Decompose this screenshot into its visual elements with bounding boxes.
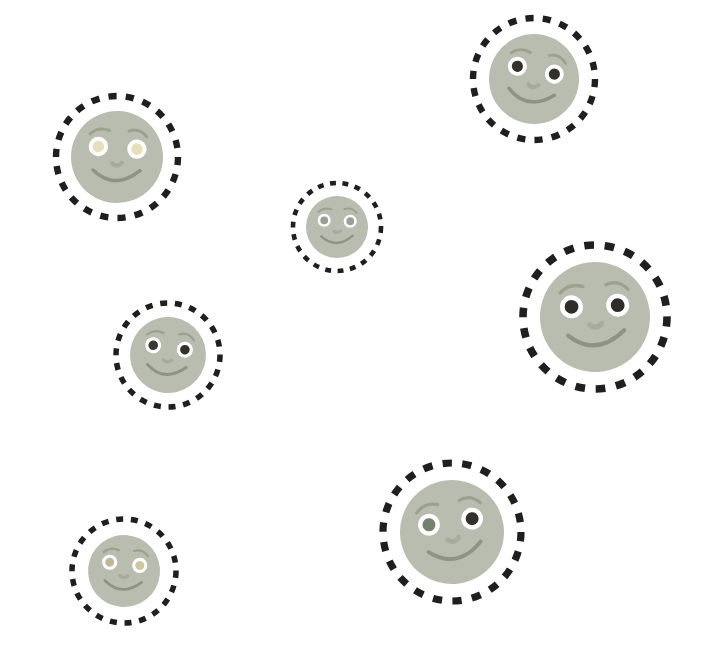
face — [305, 195, 369, 259]
face-circle — [393, 473, 510, 590]
circled-face-top-left — [56, 96, 178, 218]
circled-face-bottom-right — [383, 463, 521, 601]
circled-face-top-right — [473, 18, 595, 140]
face — [125, 312, 211, 398]
circled-face-middle-left — [116, 303, 220, 407]
face — [481, 26, 588, 133]
face-circle — [481, 26, 588, 133]
face — [68, 108, 166, 206]
circled-face-center — [293, 183, 381, 271]
face — [393, 473, 510, 590]
moon-faces-canvas — [0, 0, 716, 654]
face-circle — [68, 108, 166, 206]
face-circle — [84, 531, 163, 610]
circled-face-bottom-left — [72, 519, 176, 623]
face — [538, 260, 652, 374]
face-circle — [305, 195, 369, 259]
illustration-stage — [0, 0, 716, 654]
face — [84, 531, 163, 610]
circled-face-middle-right — [523, 245, 667, 389]
face-circle — [538, 260, 652, 374]
face-circle — [125, 312, 211, 398]
